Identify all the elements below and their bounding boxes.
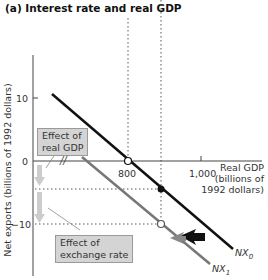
connector-er bbox=[48, 208, 80, 230]
tick-label-0: 0 bbox=[22, 156, 28, 167]
x-axis-label-3: 1992 dollars) bbox=[201, 184, 264, 195]
gdp-effect-arrow-shaft bbox=[37, 165, 42, 177]
gdp-effect-arrow-icon bbox=[34, 177, 45, 186]
effect-exchange-rate-box: Effect of exchange rate bbox=[55, 235, 133, 263]
x-axis-label-1: Real GDP bbox=[220, 162, 264, 173]
marker-open-nx0 bbox=[125, 158, 132, 165]
nx0-label: NX0 bbox=[235, 247, 254, 261]
nx1-label: NX1 bbox=[212, 263, 230, 277]
marker-open-nx1 bbox=[158, 221, 165, 228]
effect-real-gdp-box: Effect of real GDP bbox=[37, 128, 88, 156]
y-axis-label: Net exports (billions of 1992 dollars) bbox=[2, 83, 13, 256]
marker-filled-nx0 bbox=[158, 186, 165, 193]
er-effect-arrow-icon bbox=[34, 214, 45, 223]
tick-label-1000: 1,000 bbox=[189, 168, 216, 179]
tick-label-800: 800 bbox=[118, 168, 136, 179]
tick-label-neg10: −10 bbox=[11, 219, 31, 230]
er-effect-arrow-shaft bbox=[37, 192, 42, 214]
tick-label-10: 10 bbox=[16, 93, 28, 104]
x-axis-label-2: (billions of bbox=[215, 173, 265, 184]
